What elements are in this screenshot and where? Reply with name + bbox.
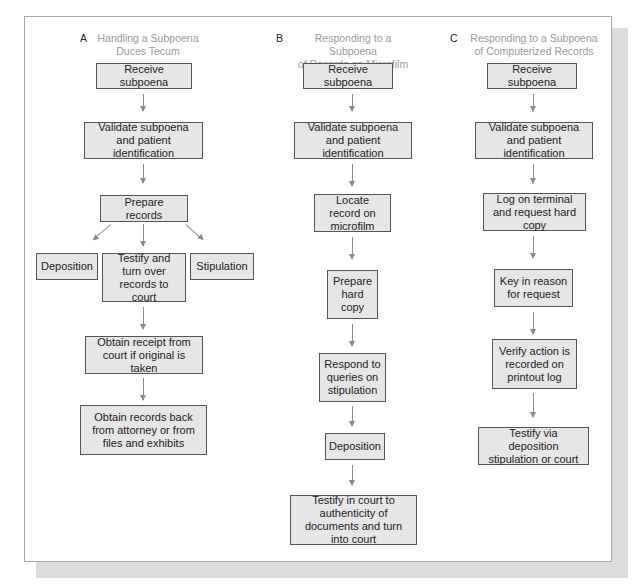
- column-b-letter: B: [276, 32, 283, 45]
- arrow-icon: [143, 307, 144, 329]
- c-step-verify-action: Verify action is recorded on printout lo…: [492, 339, 577, 389]
- b-step-receive-subpoena: Receive subpoena: [303, 63, 393, 89]
- column-a-title: A Handling a Subpoena Duces Tecum: [82, 32, 214, 58]
- arrow-icon: [143, 378, 144, 400]
- a-step-receive-subpoena: Receive subpoena: [96, 63, 192, 89]
- arrow-icon: [352, 406, 353, 426]
- b-step-respond-queries: Respond to queries on stipulation: [319, 353, 386, 402]
- b-step-validate: Validate subpoena and patient identifica…: [294, 122, 412, 159]
- column-c-letter: C: [450, 32, 458, 45]
- a-step-testify: Testify and turn over records to court: [102, 253, 186, 302]
- arrow-icon: [352, 94, 353, 111]
- arrow-icon: [143, 164, 144, 183]
- column-b-title-line1: Responding to a Subpoena: [290, 32, 416, 58]
- arrow-icon: [352, 324, 353, 346]
- a-branch-deposition: Deposition: [36, 253, 98, 280]
- column-c-title-line1: Responding to a Subpoena: [470, 32, 598, 45]
- arrow-icon: [533, 312, 534, 334]
- c-step-receive-subpoena: Receive subpoena: [487, 63, 577, 89]
- arrow-icon: [143, 94, 144, 111]
- arrow-icon: [533, 94, 534, 111]
- b-step-locate-record: Locate record on microfilm: [314, 194, 391, 232]
- column-a-letter: A: [80, 32, 87, 45]
- c-step-key-in-reason: Key in reason for request: [494, 269, 573, 307]
- c-step-testify-via-deposition: Testify via deposition stipulation or co…: [478, 427, 589, 465]
- c-step-log-on-terminal: Log on terminal and request hard copy: [483, 193, 586, 231]
- a-step-validate: Validate subpoena and patient identifica…: [84, 122, 203, 159]
- column-a-title-line1: Handling a Subpoena: [82, 32, 214, 45]
- b-step-testify-in-court: Testify in court to authenticity of docu…: [290, 495, 417, 545]
- arrow-icon: [533, 164, 534, 183]
- a-branch-stipulation: Stipulation: [190, 253, 254, 280]
- column-a-title-line2: Duces Tecum: [82, 45, 214, 58]
- column-c-title-line2: of Computerized Records: [470, 45, 598, 58]
- arrow-icon: [533, 236, 534, 258]
- b-step-prepare-hard-copy: Prepare hard copy: [327, 270, 378, 319]
- arrow-icon: [143, 224, 144, 246]
- arrow-icon: [352, 164, 353, 186]
- c-step-validate: Validate subpoena and patient identifica…: [475, 122, 593, 159]
- arrow-icon: [533, 393, 534, 417]
- arrow-icon: [352, 465, 353, 485]
- arrow-icon: [352, 237, 353, 259]
- a-step-prepare-records: Prepare records: [100, 195, 188, 222]
- column-c-title: C Responding to a Subpoena of Computeriz…: [470, 32, 598, 58]
- a-step-obtain-records-back: Obtain records back from attorney or fro…: [80, 405, 207, 455]
- b-step-deposition: Deposition: [325, 433, 385, 460]
- a-step-obtain-receipt: Obtain receipt from court if original is…: [85, 336, 203, 374]
